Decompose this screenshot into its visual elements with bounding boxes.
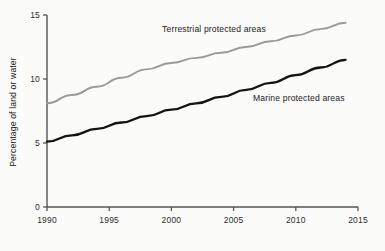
y-axis-title: Percentage of land or water bbox=[8, 57, 18, 167]
x-axis-tick-label: 2010 bbox=[286, 215, 306, 225]
chart-series-lines bbox=[47, 23, 346, 142]
y-axis-tick-label: 5 bbox=[26, 138, 40, 148]
series-label-marine: Marine protected areas bbox=[253, 93, 345, 103]
chart-container: Percentage of land or water 051015199019… bbox=[0, 0, 385, 251]
x-axis-tick-label: 2015 bbox=[348, 215, 368, 225]
series-label-terrestrial: Terrestrial protected areas bbox=[162, 24, 266, 34]
x-axis-tick-label: 2005 bbox=[224, 215, 244, 225]
x-axis-tick-label: 1990 bbox=[37, 215, 57, 225]
chart-axes bbox=[47, 15, 358, 207]
y-axis-tick-label: 10 bbox=[26, 74, 40, 84]
x-axis-tick-label: 2000 bbox=[162, 215, 182, 225]
y-axis-tick-label: 0 bbox=[26, 202, 40, 212]
x-axis-tick-label: 1995 bbox=[99, 215, 119, 225]
y-axis-tick-label: 15 bbox=[26, 10, 40, 20]
chart-plot-area bbox=[0, 0, 385, 251]
series-line-terrestrial bbox=[47, 23, 346, 104]
